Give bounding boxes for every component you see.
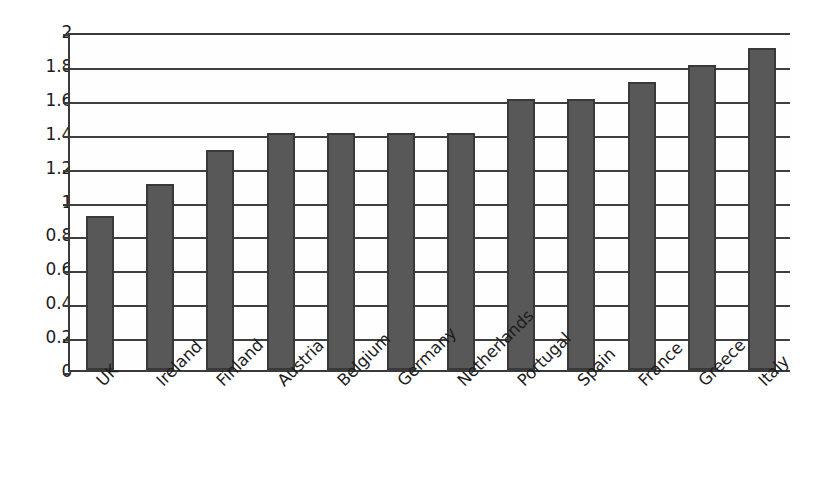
bar bbox=[748, 48, 776, 370]
y-axis-tick-label: 0 bbox=[12, 363, 72, 380]
bar-slot bbox=[732, 35, 792, 370]
bar-slot bbox=[431, 35, 491, 370]
y-axis-tick-label: 0.6 bbox=[12, 261, 72, 278]
bar bbox=[628, 82, 656, 370]
bar-slot bbox=[251, 35, 311, 370]
plot-area bbox=[68, 33, 790, 372]
y-axis-tick-label: 0.8 bbox=[12, 227, 72, 244]
bar-chart-figure: 2 1.8 1.6 1.4 1.2 1 0.8 0.6 0.4 0.2 0 UK… bbox=[0, 0, 824, 494]
bar bbox=[567, 99, 595, 370]
bar bbox=[387, 133, 415, 370]
bar-slot bbox=[612, 35, 672, 370]
bar bbox=[327, 133, 355, 370]
bar-slot bbox=[311, 35, 371, 370]
bar-slot bbox=[371, 35, 431, 370]
y-axis-tick-label: 0.2 bbox=[12, 329, 72, 346]
y-axis-tick-label: 1.4 bbox=[12, 126, 72, 143]
bar-slot bbox=[190, 35, 250, 370]
y-axis-tick-label: 1.8 bbox=[12, 58, 72, 75]
y-axis-tick-label: 0.4 bbox=[12, 295, 72, 312]
x-axis-tick-labels: UKIrelandFinlandAustriaBelgiumGermanyNet… bbox=[68, 374, 790, 492]
y-axis-tick-label: 2 bbox=[12, 24, 72, 41]
bar bbox=[688, 65, 716, 370]
bar-slot bbox=[672, 35, 732, 370]
bar bbox=[206, 150, 234, 370]
bars-layer bbox=[70, 35, 790, 370]
y-axis-tick-label: 1 bbox=[12, 194, 72, 211]
bar-slot bbox=[551, 35, 611, 370]
y-axis-tick-label: 1.2 bbox=[12, 160, 72, 177]
bar-slot bbox=[130, 35, 190, 370]
bar bbox=[267, 133, 295, 370]
bar-slot bbox=[70, 35, 130, 370]
bar bbox=[146, 184, 174, 370]
y-axis-tick-label: 1.6 bbox=[12, 92, 72, 109]
bar bbox=[86, 216, 114, 370]
